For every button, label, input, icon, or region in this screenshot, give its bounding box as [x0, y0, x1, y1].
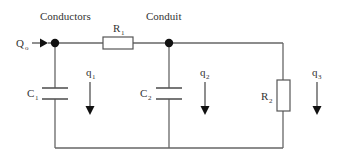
capacitor-c2: [156, 88, 182, 99]
conductors-label: Conductors: [40, 10, 91, 22]
svg-text:2: 2: [206, 73, 210, 81]
r2-label: R 2: [261, 90, 273, 105]
r1-label: R 1: [113, 22, 125, 37]
q3-arrow-icon: [313, 82, 322, 115]
svg-text:2: 2: [269, 97, 273, 105]
svg-text:1: 1: [121, 29, 125, 37]
c2-label: C 2: [140, 87, 152, 102]
svg-text:3: 3: [318, 73, 322, 81]
capacitor-c1: [42, 88, 68, 99]
q1-label: q 1: [86, 66, 96, 81]
svg-text:o: o: [25, 44, 29, 52]
q1-arrow-icon: [86, 82, 95, 115]
svg-text:1: 1: [92, 73, 96, 81]
input-flow-label: Q o: [16, 37, 29, 52]
conduit-node: [165, 39, 173, 47]
q2-label: q 2: [200, 66, 210, 81]
svg-text:R: R: [113, 22, 121, 34]
input-arrow-icon: [32, 39, 48, 48]
resistor-r2: [277, 80, 290, 111]
wires: [48, 43, 283, 148]
conductors-node: [51, 39, 59, 47]
conduit-label: Conduit: [146, 10, 181, 22]
q2-arrow-icon: [201, 82, 210, 115]
q3-label: q 3: [312, 66, 322, 81]
resistor-r1: [103, 37, 133, 49]
c1-label: C 1: [27, 87, 39, 102]
svg-text:C: C: [27, 87, 34, 99]
circuit-diagram: Conductors Conduit Q o R 1 R 2: [0, 0, 340, 155]
svg-text:1: 1: [35, 94, 39, 102]
svg-text:R: R: [261, 90, 269, 102]
svg-text:Q: Q: [16, 37, 24, 49]
svg-text:C: C: [140, 87, 147, 99]
svg-text:2: 2: [148, 94, 152, 102]
